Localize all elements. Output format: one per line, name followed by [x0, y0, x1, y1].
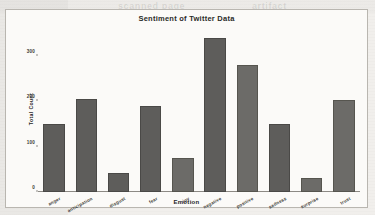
- y-tick-mark: [36, 191, 38, 192]
- bar-disgust: [108, 173, 129, 192]
- y-tick-mark: [36, 100, 38, 101]
- y-tick-mark: [36, 145, 38, 146]
- bar-joy: [172, 158, 193, 192]
- y-tick-label: 0: [32, 185, 35, 190]
- bar-anticipation: [76, 99, 97, 192]
- bar-positive: [237, 65, 258, 192]
- y-tick-label: 300: [27, 49, 35, 54]
- chart-figure: Sentiment of Twitter Data Total Count 01…: [5, 9, 368, 208]
- x-axis-label: Emotion: [6, 199, 367, 205]
- bar-negative: [204, 38, 225, 192]
- y-tick-mark: [36, 55, 38, 56]
- y-tick-label: 200: [27, 94, 35, 99]
- bar-trust: [333, 100, 354, 192]
- bar-fear: [140, 106, 161, 192]
- plot-area: 0100200300 angeranticipationdisgustfearj…: [38, 29, 360, 192]
- chart-title: Sentiment of Twitter Data: [6, 14, 367, 23]
- y-tick-label: 100: [27, 139, 35, 144]
- bar-anger: [43, 124, 64, 192]
- bar-surprise: [301, 178, 322, 192]
- bar-sadness: [269, 124, 290, 192]
